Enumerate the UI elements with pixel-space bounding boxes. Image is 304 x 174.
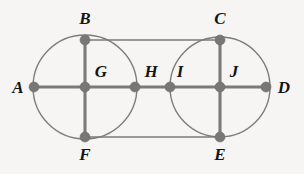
vertex-I[interactable] <box>165 82 175 92</box>
vertex-label-C: C <box>214 9 226 28</box>
vertex-J[interactable] <box>215 82 225 92</box>
diagram-root: A B C D E F G H I J <box>0 0 304 174</box>
vertex-label-B: B <box>78 9 90 28</box>
vertex-label-H: H <box>143 62 158 81</box>
vertex-label-F: F <box>78 145 91 164</box>
vertex-label-D: D <box>277 78 290 97</box>
vertex-E[interactable] <box>215 132 225 142</box>
vertex-label-A: A <box>11 78 23 97</box>
vertex-D[interactable] <box>261 82 271 92</box>
vertex-label-J: J <box>229 62 239 81</box>
vertex-label-E: E <box>213 145 225 164</box>
vertex-B[interactable] <box>80 35 90 45</box>
vertex-C[interactable] <box>215 35 225 45</box>
vertex-label-G: G <box>95 62 108 81</box>
vertex-H[interactable] <box>130 82 140 92</box>
vertex-A[interactable] <box>29 82 39 92</box>
graph-canvas: A B C D E F G H I J <box>0 0 304 174</box>
vertex-G[interactable] <box>80 82 90 92</box>
vertex-F[interactable] <box>80 132 90 142</box>
